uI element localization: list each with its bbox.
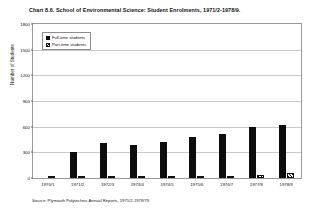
x-tick-label: 1976/7 bbox=[220, 182, 233, 187]
bar-group: 1977/8 bbox=[241, 24, 271, 178]
legend-label: Part-time students bbox=[52, 42, 86, 47]
y-tick-label: 600 bbox=[23, 124, 30, 129]
bar-part-time[interactable] bbox=[108, 176, 115, 178]
chart-container: Chart 8.6. School of Environmental Scien… bbox=[0, 0, 316, 213]
bar-part-time[interactable] bbox=[78, 176, 85, 178]
bar-full-time[interactable] bbox=[70, 152, 77, 178]
bar-part-time[interactable] bbox=[138, 176, 145, 178]
bar-part-time[interactable] bbox=[257, 175, 264, 178]
bar-full-time[interactable] bbox=[130, 145, 137, 178]
y-tick-label: 1500 bbox=[20, 47, 30, 52]
bar-full-time[interactable] bbox=[249, 127, 256, 178]
bar-part-time[interactable] bbox=[227, 176, 234, 178]
legend-swatch-part-time bbox=[46, 43, 50, 47]
legend-swatch-full-time bbox=[46, 36, 50, 40]
x-tick-label: 1978/9 bbox=[280, 182, 293, 187]
chart-legend: Full-time studentsPart-time students bbox=[42, 32, 91, 50]
bar-group: 1974/5 bbox=[152, 24, 182, 178]
y-axis-title: Number of Students bbox=[10, 5, 15, 125]
bar-group: 1975/6 bbox=[182, 24, 212, 178]
y-tick-label: 1200 bbox=[20, 73, 30, 78]
x-tick-label: 1975/6 bbox=[190, 182, 203, 187]
x-tick-label: 1974/5 bbox=[160, 182, 173, 187]
bar-full-time[interactable] bbox=[100, 143, 107, 178]
bar-part-time[interactable] bbox=[197, 176, 204, 178]
bar-full-time[interactable] bbox=[189, 137, 196, 178]
bar-group: 1972/3 bbox=[93, 24, 123, 178]
x-tick-label: 1973/4 bbox=[131, 182, 144, 187]
bar-group: 1976/7 bbox=[212, 24, 242, 178]
y-tick-label: 0 bbox=[28, 176, 30, 181]
y-tick-label: 1800 bbox=[20, 22, 30, 27]
x-tick-label: 1972/3 bbox=[101, 182, 114, 187]
chart-title: Chart 8.6. School of Environmental Scien… bbox=[29, 7, 240, 13]
bar-group: 1978/9 bbox=[271, 24, 301, 178]
y-tick-label: 900 bbox=[23, 99, 30, 104]
legend-label: Full-time students bbox=[52, 35, 85, 40]
legend-item[interactable]: Part-time students bbox=[46, 42, 86, 47]
bar-part-time[interactable] bbox=[48, 176, 55, 178]
bar-group: 1973/4 bbox=[122, 24, 152, 178]
source-note: Source: Plymouth Polytechnic Annual Repo… bbox=[32, 198, 149, 203]
x-tick-label: 1977/8 bbox=[250, 182, 263, 187]
x-tick-label: 1970/1 bbox=[41, 182, 54, 187]
bar-full-time[interactable] bbox=[279, 125, 286, 178]
x-tick-label: 1971/2 bbox=[71, 182, 84, 187]
bar-full-time[interactable] bbox=[219, 134, 226, 178]
bar-part-time[interactable] bbox=[168, 176, 175, 178]
legend-item[interactable]: Full-time students bbox=[46, 35, 86, 40]
bar-part-time[interactable] bbox=[287, 173, 294, 178]
bar-full-time[interactable] bbox=[160, 142, 167, 178]
y-tick-label: 300 bbox=[23, 150, 30, 155]
